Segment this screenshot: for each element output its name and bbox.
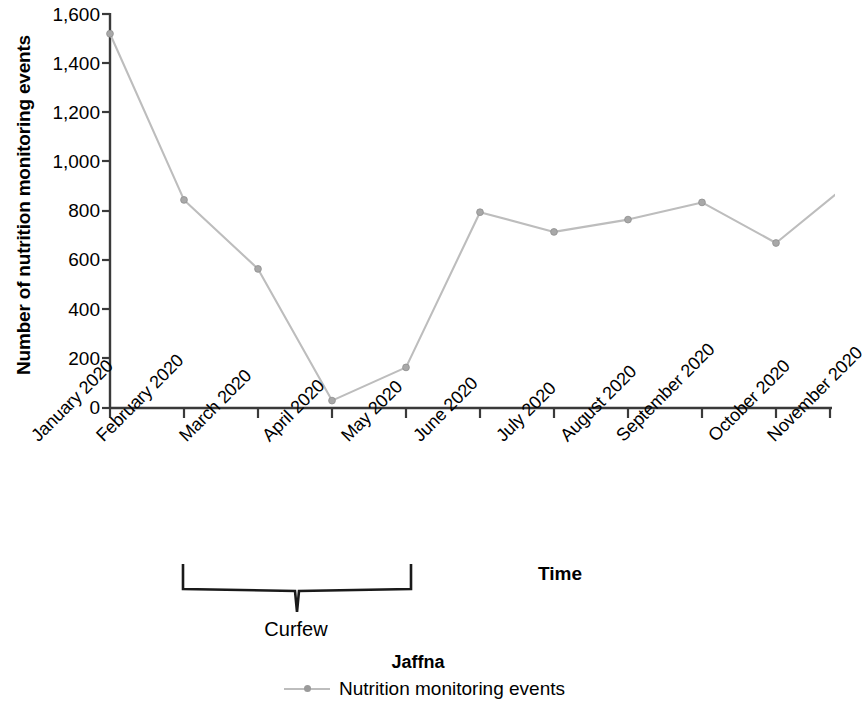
data-point [403, 364, 410, 371]
data-point [625, 216, 632, 223]
chart-title: Jaffna [318, 652, 518, 673]
data-point [551, 229, 558, 236]
data-point [255, 266, 262, 273]
series-markers [107, 30, 835, 404]
data-point [699, 199, 706, 206]
curfew-bracket [183, 564, 411, 612]
legend-line-marker-icon [284, 682, 330, 696]
chart-legend: Nutrition monitoring events [284, 676, 704, 702]
data-point [329, 397, 336, 404]
series-line-nutrition-monitoring-events [110, 34, 835, 401]
data-point [181, 197, 188, 204]
curfew-annotation-label: Curfew [196, 618, 396, 641]
data-point [477, 209, 484, 216]
data-point [773, 240, 780, 247]
legend-label: Nutrition monitoring events [339, 678, 565, 700]
x-axis-title: Time [498, 563, 622, 585]
data-point [107, 30, 114, 37]
